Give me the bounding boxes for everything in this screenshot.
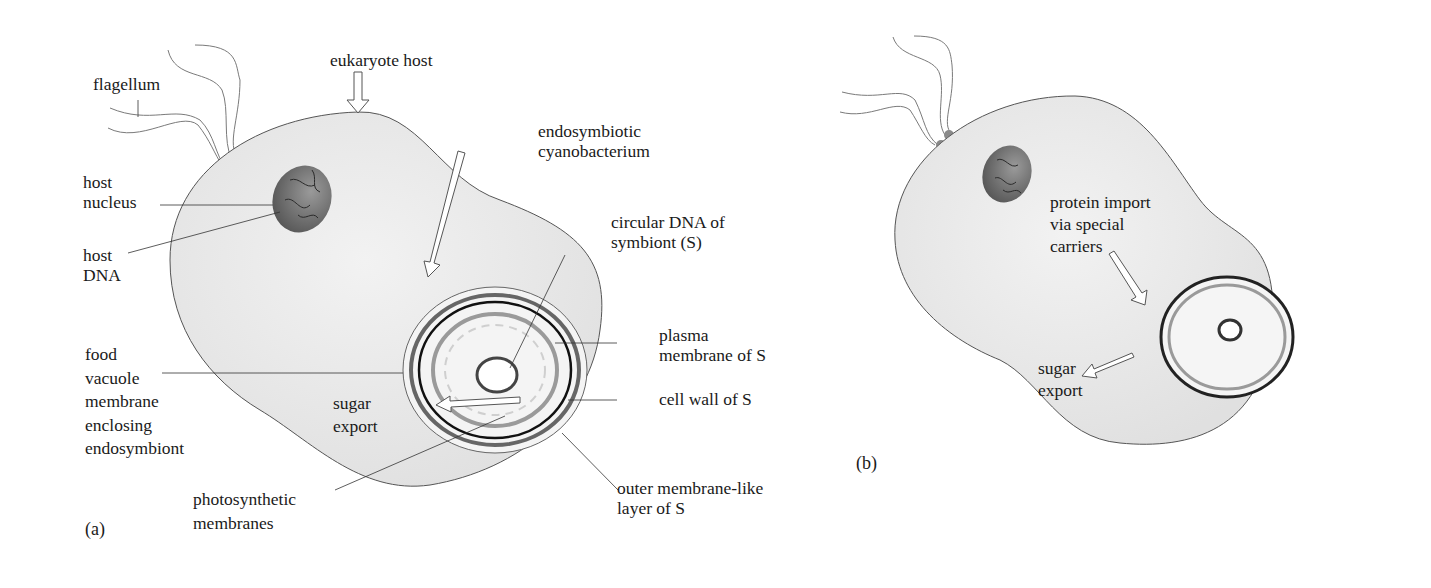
label-protein-import: protein import via special carriers bbox=[1050, 191, 1151, 257]
circular-dna-icon bbox=[1219, 320, 1241, 340]
label-host-nucleus: host nucleus bbox=[83, 172, 136, 212]
label-eukaryote-host: eukaryote host bbox=[330, 50, 433, 70]
label-sugar-export: sugar export bbox=[333, 392, 378, 438]
panel-label-b: (b) bbox=[856, 453, 877, 474]
circular-dna-icon bbox=[477, 358, 517, 392]
label-circular-dna: circular DNA of symbiont (S) bbox=[611, 212, 725, 252]
label-host-dna: host DNA bbox=[83, 245, 121, 285]
flagellum-icon bbox=[840, 36, 952, 145]
label-cell-wall: cell wall of S bbox=[659, 389, 752, 409]
label-endosymbiotic-cyanobacterium: endosymbiotic cyanobacterium bbox=[538, 121, 650, 161]
label-outer-membrane: outer membrane-like layer of S bbox=[617, 478, 763, 518]
plastid bbox=[1161, 277, 1293, 397]
flagellum-icon bbox=[108, 45, 240, 168]
label-photosynthetic-membranes: photosynthetic membranes bbox=[193, 487, 296, 535]
label-food-vacuole: food vacuole membrane enclosing endosymb… bbox=[85, 343, 184, 461]
label-flagellum: flagellum bbox=[93, 74, 160, 94]
label-sugar-export-b: sugar export bbox=[1038, 357, 1083, 401]
label-plasma-membrane: plasma membrane of S bbox=[659, 325, 766, 365]
panel-label-a: (a) bbox=[85, 519, 105, 540]
endosymbiont bbox=[403, 287, 587, 453]
